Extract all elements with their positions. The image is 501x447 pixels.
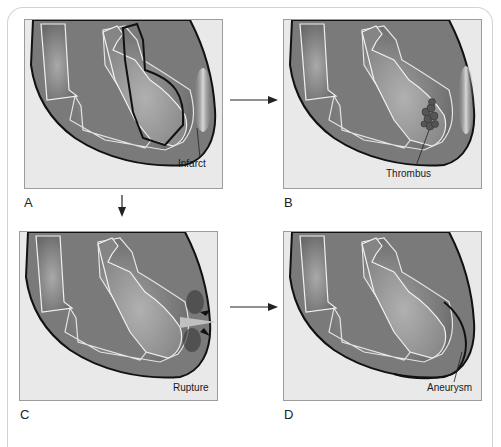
callout-rupture: Rupture xyxy=(173,382,209,393)
callout-aneurysm: Aneurysm xyxy=(427,382,472,393)
panel-a-infarct: Infarct xyxy=(24,19,223,189)
arrow-c-to-d xyxy=(230,302,278,312)
panel-d-aneurysm: Aneurysm xyxy=(283,231,482,401)
arrow-a-to-b xyxy=(230,95,278,105)
panel-b-thrombus: Thrombus xyxy=(283,19,482,189)
heart-illustration xyxy=(20,232,218,401)
panel-letter-a: A xyxy=(24,195,33,210)
arrow-a-to-c xyxy=(117,195,127,217)
panel-letter-b: B xyxy=(284,195,293,210)
panel-c-rupture: Rupture xyxy=(19,231,218,401)
callout-infarct: Infarct xyxy=(178,158,206,169)
heart-illustration xyxy=(284,20,482,189)
callout-thrombus: Thrombus xyxy=(386,168,431,179)
panel-letter-c: C xyxy=(20,407,29,422)
heart-illustration xyxy=(284,232,482,401)
panel-letter-d: D xyxy=(284,407,293,422)
infarct-region xyxy=(194,68,212,132)
